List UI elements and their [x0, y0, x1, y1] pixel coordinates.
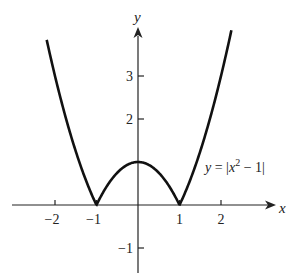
curve-abs-x2-minus-1: [47, 30, 232, 204]
function-annotation: y = |x2 − 1|: [203, 157, 265, 175]
eq-rest: − 1|: [240, 160, 265, 175]
x-axis-label: x: [278, 200, 286, 216]
x-tick-label: −2: [45, 212, 60, 227]
x-tick-label: 1: [176, 212, 183, 227]
y-tick-label: 2: [126, 112, 133, 127]
x-ticks: −2−112: [45, 200, 225, 227]
y-axis-label: y: [132, 9, 141, 25]
y-tick-label: 3: [126, 69, 133, 84]
function-plot: −2−112 32−1 x y y = |x2 − 1|: [0, 0, 291, 273]
axes: −2−112 32−1 x y: [12, 9, 286, 273]
x-tick-label: −1: [86, 212, 101, 227]
eq-equals: = |: [211, 160, 229, 175]
x-tick-label: 2: [218, 212, 225, 227]
y-tick-label: −1: [118, 241, 133, 256]
